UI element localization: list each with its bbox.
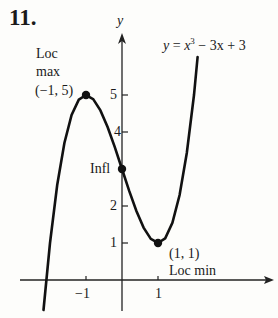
x-tick-label-1: 1 — [155, 287, 162, 301]
y-tick-label-5: 5 — [110, 88, 117, 102]
loc-max-point — [82, 91, 90, 99]
equation-eq: = — [169, 38, 184, 53]
equation-rest: − 3x + 3 — [195, 38, 246, 53]
equation-label: y = x3 − 3x + 3 — [163, 37, 246, 53]
inflection-point — [118, 165, 126, 173]
y-tick-label-2: 2 — [110, 199, 117, 213]
loc-min-label: Loc min — [169, 264, 216, 278]
y-tick-label-4: 4 — [114, 125, 121, 139]
x-tick-label-neg1: −1 — [75, 287, 90, 301]
loc-max-label-line2: max — [36, 65, 60, 79]
loc-min-coord: (1, 1) — [169, 247, 199, 261]
loc-min-point — [154, 239, 162, 247]
loc-max-label-line1: Loc — [36, 47, 58, 61]
y-axis-label: y — [117, 14, 123, 28]
y-tick-label-1: 1 — [110, 236, 117, 250]
loc-max-coord: (−1, 5) — [35, 84, 73, 98]
inflection-label: Infl — [90, 162, 110, 176]
